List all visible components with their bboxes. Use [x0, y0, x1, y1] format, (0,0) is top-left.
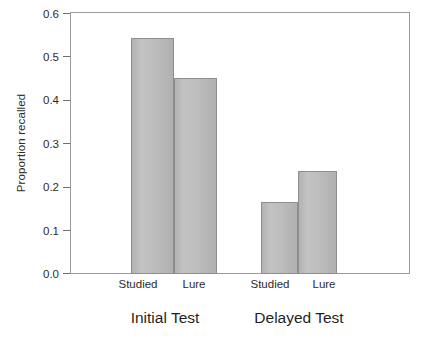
y-tick-mark-0-1 — [63, 230, 70, 231]
y-tick-label-0-3: 0.3 — [19, 138, 59, 150]
bar-delayed-studied — [261, 202, 298, 274]
category-label-delayed-studied: Studied — [239, 277, 301, 291]
y-tick-label-0-5: 0.5 — [19, 51, 59, 63]
y-tick-label-0-6: 0.6 — [19, 8, 59, 20]
category-label-delayed-lure: Lure — [303, 277, 345, 291]
y-tick-mark-0-2 — [63, 187, 70, 188]
y-tick-mark-0-6 — [63, 13, 70, 14]
y-tick-label-0-0: 0.0 — [19, 268, 59, 280]
group-label-initial-test: Initial Test — [110, 308, 220, 328]
y-tick-label-0-2: 0.2 — [19, 181, 59, 193]
y-tick-mark-0-5 — [63, 56, 70, 57]
bar-chart: Proportion recalled 0.6 0.5 0.4 0.3 0.2 … — [0, 0, 425, 341]
category-label-initial-lure: Lure — [173, 277, 215, 291]
bar-initial-studied — [131, 38, 174, 274]
plot-area — [70, 12, 410, 274]
group-label-delayed-test: Delayed Test — [238, 308, 360, 328]
y-tick-mark-0-3 — [63, 143, 70, 144]
y-tick-label-0-4: 0.4 — [19, 94, 59, 106]
bar-delayed-lure — [298, 171, 337, 274]
y-tick-mark-0-0 — [63, 273, 70, 274]
y-tick-label-0-1: 0.1 — [19, 225, 59, 237]
bar-initial-lure — [174, 78, 217, 274]
y-tick-mark-0-4 — [63, 100, 70, 101]
category-label-initial-studied: Studied — [107, 277, 169, 291]
